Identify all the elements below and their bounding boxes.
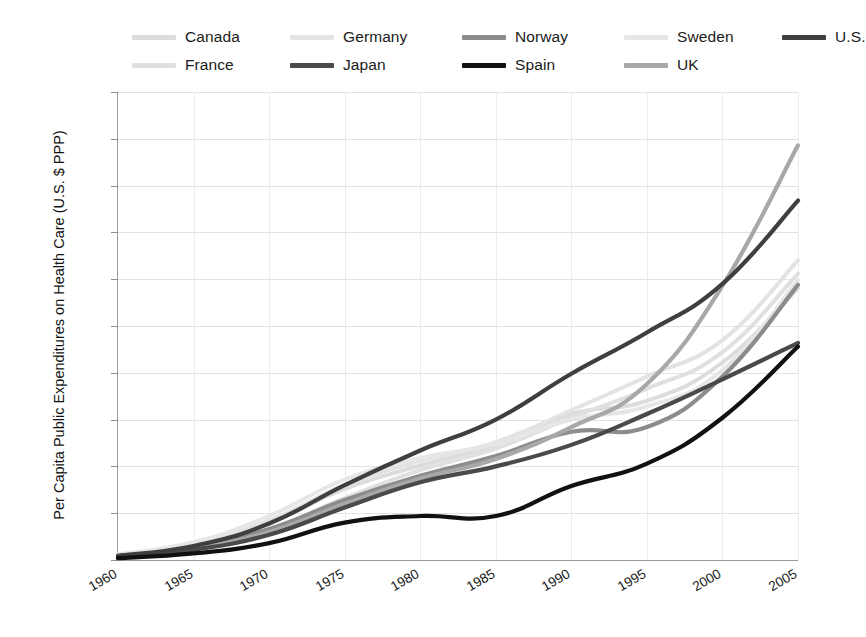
legend-swatch-icon <box>132 35 176 40</box>
series-line-sweden <box>118 280 798 554</box>
legend-label: UK <box>677 57 699 73</box>
y-tick-mark <box>111 513 118 514</box>
y-tick-mark <box>111 139 118 140</box>
series-line-france <box>118 274 798 557</box>
legend-item-canada[interactable]: Canada <box>132 29 240 45</box>
y-tick-mark <box>111 92 118 93</box>
x-tick-label: 1995 <box>615 566 649 594</box>
chart-legend: CanadaGermanyNorwaySwedenU.S. FranceJapa… <box>132 24 812 86</box>
y-tick-mark <box>111 373 118 374</box>
legend-swatch-icon <box>624 35 668 40</box>
legend-swatch-icon <box>290 63 334 68</box>
legend-item-germany[interactable]: Germany <box>290 29 407 45</box>
y-tick-mark <box>111 279 118 280</box>
legend-item-u-s[interactable]: U.S. <box>782 29 866 45</box>
legend-item-france[interactable]: France <box>132 57 234 73</box>
legend-label: Canada <box>185 29 240 45</box>
y-gridline <box>118 560 798 561</box>
y-tick-mark <box>111 326 118 327</box>
legend-row-2: FranceJapanSpainUK <box>132 52 812 78</box>
x-tick-label: 1975 <box>313 566 347 594</box>
legend-swatch-icon <box>782 35 826 40</box>
x-tick-label: 1965 <box>162 566 196 594</box>
y-tick-mark <box>111 186 118 187</box>
legend-item-spain[interactable]: Spain <box>462 57 555 73</box>
x-tick-label: 1970 <box>237 566 271 594</box>
legend-item-uk[interactable]: UK <box>624 57 699 73</box>
legend-label: Sweden <box>677 29 734 45</box>
series-line-u-s <box>118 201 798 556</box>
legend-swatch-icon <box>624 63 668 68</box>
y-tick-mark <box>111 420 118 421</box>
y-tick-mark <box>111 232 118 233</box>
legend-label: U.S. <box>835 29 866 45</box>
legend-swatch-icon <box>132 63 176 68</box>
x-tick-label: 1960 <box>86 566 120 594</box>
legend-label: France <box>185 57 234 73</box>
legend-swatch-icon <box>462 35 506 40</box>
legend-row-1: CanadaGermanyNorwaySwedenU.S. <box>132 24 812 50</box>
y-tick-mark <box>111 466 118 467</box>
series-line-u-k <box>118 145 798 556</box>
y-tick-mark <box>111 560 118 561</box>
legend-label: Japan <box>343 57 386 73</box>
legend-label: Germany <box>343 29 407 45</box>
y-axis-title: Per Capita Public Expenditures on Health… <box>51 90 67 560</box>
x-tick-label: 1985 <box>464 566 498 594</box>
legend-item-sweden[interactable]: Sweden <box>624 29 734 45</box>
plot-area: 05001,0001,5002,0002,5003,0003,5004,0004… <box>118 92 798 560</box>
legend-item-norway[interactable]: Norway <box>462 29 568 45</box>
legend-swatch-icon <box>290 35 334 40</box>
x-tick-label: 1990 <box>539 566 573 594</box>
x-tick-label: 1980 <box>388 566 422 594</box>
legend-label: Norway <box>515 29 568 45</box>
line-series-layer <box>118 92 798 560</box>
x-gridline <box>798 92 799 560</box>
legend-item-japan[interactable]: Japan <box>290 57 386 73</box>
x-tick-label: 2005 <box>766 566 800 594</box>
x-tick-label: 2000 <box>690 566 724 594</box>
legend-label: Spain <box>515 57 555 73</box>
legend-swatch-icon <box>462 63 506 68</box>
